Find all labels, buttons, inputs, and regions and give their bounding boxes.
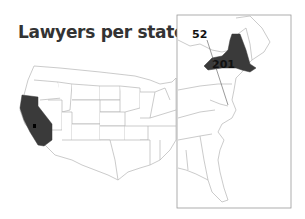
label-52: 52	[192, 28, 207, 41]
california-dot	[33, 124, 36, 128]
us-map: 52 201	[0, 0, 305, 219]
label-201: 201	[212, 58, 235, 71]
